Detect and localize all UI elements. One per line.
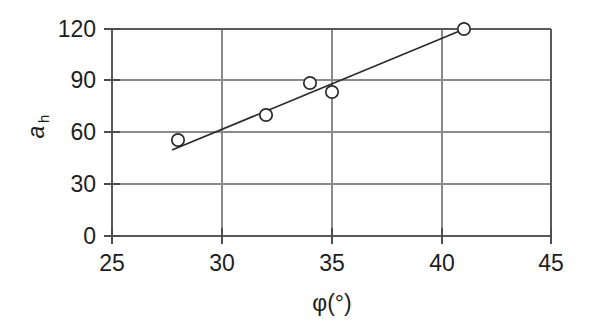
y-tick-label-30: 30 (70, 171, 96, 197)
y-tick-label-90: 90 (70, 67, 96, 93)
data-point (172, 134, 184, 146)
y-tick-label-60: 60 (70, 119, 96, 145)
chart-background (0, 0, 592, 331)
x-axis-title: φ(°) (312, 290, 351, 316)
chart-figure: 120 90 60 30 0 25 30 35 40 45 a h φ(°) (0, 0, 592, 331)
y-axis-title-subscript: h (35, 115, 52, 123)
y-tick-label-120: 120 (58, 16, 96, 42)
data-point (326, 86, 338, 98)
x-tick-label-40: 40 (429, 250, 455, 276)
y-tick-label-0: 0 (83, 223, 96, 249)
chart-svg: 120 90 60 30 0 25 30 35 40 45 a h φ(°) (0, 0, 592, 331)
x-tick-label-45: 45 (538, 250, 564, 276)
y-axis-title-base: a (23, 126, 49, 139)
data-point (260, 109, 272, 121)
data-point (458, 23, 470, 35)
data-point (304, 77, 316, 89)
x-tick-label-35: 35 (319, 250, 345, 276)
x-tick-label-30: 30 (209, 250, 235, 276)
x-tick-label-25: 25 (99, 250, 125, 276)
